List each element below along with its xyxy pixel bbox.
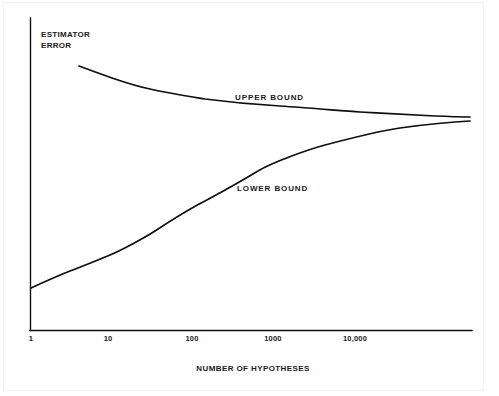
x-tick-label-1: 1: [29, 334, 33, 343]
lower-bound-curve: [31, 121, 470, 288]
estimator-error-chart: ESTIMATOR ERROR 1 10 100 1000 10,000 UPP…: [0, 0, 499, 396]
x-tick-label-10000: 10,000: [343, 334, 367, 343]
chart-figure: ESTIMATOR ERROR 1 10 100 1000 10,000 UPP…: [0, 0, 499, 396]
upper-bound-label: UPPER BOUND: [235, 93, 304, 102]
x-tick-label-1000: 1000: [264, 334, 282, 343]
x-axis-title: NUMBER OF HYPOTHESES: [196, 364, 310, 373]
x-tick-label-10: 10: [104, 334, 113, 343]
upper-bound-curve: [79, 66, 470, 117]
lower-bound-label: LOWER BOUND: [237, 184, 308, 193]
y-axis-title-line2: ERROR: [41, 41, 71, 50]
x-tick-label-100: 100: [185, 334, 198, 343]
y-axis-title-line1: ESTIMATOR: [41, 30, 90, 39]
